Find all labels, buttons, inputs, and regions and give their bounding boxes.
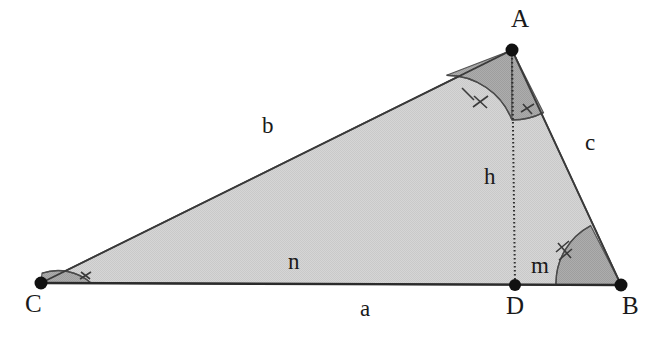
- side-label-b: b: [262, 114, 274, 137]
- vertex-label-C: C: [25, 291, 42, 316]
- vertex-label-B: B: [622, 293, 639, 318]
- vertex-dot-D: [509, 279, 521, 291]
- altitude-label-h: h: [484, 165, 496, 188]
- side-label-a: a: [360, 297, 370, 320]
- vertex-dot-A: [506, 44, 519, 57]
- diagram-canvas: [0, 0, 653, 338]
- vertex-dot-C: [35, 277, 48, 290]
- vertex-dot-B: [615, 279, 628, 292]
- segment-label-n: n: [288, 250, 300, 273]
- vertex-label-A: A: [511, 6, 529, 31]
- geometry-diagram: A B C D b c a h n m: [0, 0, 653, 338]
- segment-label-m: m: [531, 254, 549, 277]
- triangle-ABC: [41, 50, 621, 285]
- vertex-label-D: D: [506, 293, 524, 318]
- side-label-c: c: [585, 131, 595, 154]
